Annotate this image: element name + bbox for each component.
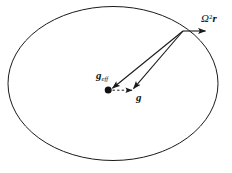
label-omega-squared-r: Ω2r — [201, 13, 217, 24]
label-g-eff-subscript: eff — [102, 75, 108, 82]
label-g: g — [136, 92, 142, 103]
label-g-eff: geff — [96, 70, 108, 82]
effective-gravity-vector — [113, 31, 184, 88]
center-point-marker — [105, 87, 112, 94]
diagram-svg — [0, 0, 232, 173]
oblate-body-outline — [8, 7, 218, 161]
label-radius-symbol: r — [212, 12, 216, 24]
label-g-symbol: g — [136, 91, 142, 103]
label-omega-symbol: Ω — [201, 12, 209, 24]
gravity-vector — [134, 31, 184, 89]
figure-canvas: geff g Ω2r — [0, 0, 232, 173]
